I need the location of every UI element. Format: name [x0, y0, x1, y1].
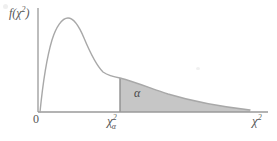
x-axis-label: χ2: [252, 113, 262, 129]
origin-label: 0: [33, 112, 39, 127]
alpha-area-label: α: [134, 86, 140, 101]
y-axis-label-close: ): [26, 6, 30, 20]
y-axis-label: f(χ2): [9, 5, 30, 21]
critical-value-exponent: 2: [113, 113, 117, 122]
critical-value-label: χ2α: [107, 113, 116, 131]
scan-speck: [3, 4, 8, 9]
chi-square-plot: [0, 0, 277, 141]
scan-speck: [196, 67, 200, 70]
chi-square-figure: f(χ2) 0 χ2α χ2 α: [0, 0, 277, 141]
y-axis-label-base: f(χ: [9, 6, 22, 20]
x-axis-label-exponent: 2: [258, 113, 262, 122]
critical-value-subscript: α: [112, 122, 116, 131]
